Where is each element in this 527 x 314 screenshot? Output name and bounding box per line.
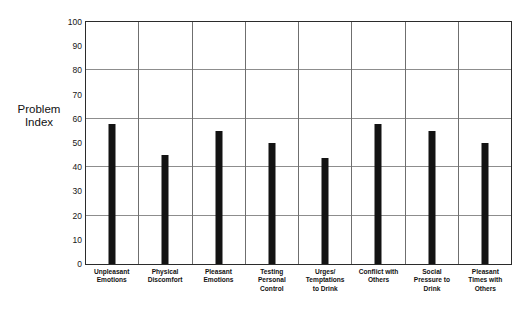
x-axis-label: Conflict withOthers	[352, 268, 405, 312]
bar	[322, 158, 329, 264]
bar	[428, 131, 435, 264]
bar	[375, 124, 382, 264]
x-axis-label: SocialPressure toDrink	[405, 268, 458, 312]
x-axis-label-line: Physical	[139, 268, 190, 276]
bar-column	[352, 22, 405, 264]
x-axis-label-line: Pleasant	[193, 268, 244, 276]
y-tick-label: 30	[52, 187, 82, 196]
x-axis-label-line: Urges/	[300, 268, 351, 276]
y-tick-label: 0	[52, 260, 82, 269]
bar	[215, 131, 222, 264]
x-axis-label-line: Social	[406, 268, 457, 276]
x-axis-label-line: Emotions	[193, 276, 244, 284]
bar-chart-figure: Problem Index 1009080706050403020100 Unp…	[0, 0, 527, 314]
y-tick-label: 90	[52, 42, 82, 51]
x-axis-label-line: Pressure to	[406, 276, 457, 284]
y-tick-label: 50	[52, 139, 82, 148]
x-axis-label-line: Pleasant	[460, 268, 511, 276]
bar	[109, 124, 116, 264]
x-axis-label-line: Temptations	[300, 276, 351, 284]
x-axis-label: UnpleasantEmotions	[85, 268, 138, 312]
y-tick-label: 80	[52, 66, 82, 75]
x-axis-label-line: Others	[353, 276, 404, 284]
x-axis-label: Urges/Temptationsto Drink	[299, 268, 352, 312]
x-axis-label: PhysicalDiscomfort	[138, 268, 191, 312]
bar-column	[406, 22, 459, 264]
x-axis-label-line: to Drink	[300, 285, 351, 293]
x-axis-label-line: Conflict with	[353, 268, 404, 276]
bar	[162, 155, 169, 264]
bar	[268, 143, 275, 264]
x-axis-label-line: Drink	[406, 285, 457, 293]
bar-column	[246, 22, 299, 264]
bar-column	[299, 22, 352, 264]
x-axis-label-line: Others	[460, 285, 511, 293]
x-axis-label-line: Discomfort	[139, 276, 190, 284]
bar-columns	[86, 22, 511, 264]
y-tick-label: 70	[52, 91, 82, 100]
y-tick-label: 20	[52, 212, 82, 221]
bar-column	[86, 22, 139, 264]
bar-column	[459, 22, 511, 264]
x-axis-label-line: Testing	[246, 268, 297, 276]
y-tick-label: 60	[52, 115, 82, 124]
bar	[481, 143, 488, 264]
x-axis-label-line: Control	[246, 285, 297, 293]
bar-column	[139, 22, 192, 264]
x-axis-label-line: Unpleasant	[86, 268, 137, 276]
x-axis-label: PleasantTimes withOthers	[459, 268, 512, 312]
y-tick-label: 10	[52, 236, 82, 245]
y-tick-label: 100	[52, 18, 82, 27]
x-axis-label: TestingPersonalControl	[245, 268, 298, 312]
x-axis-label-line: Times with	[460, 276, 511, 284]
bar-column	[193, 22, 246, 264]
x-axis-label-line: Personal	[246, 276, 297, 284]
y-tick-label: 40	[52, 163, 82, 172]
x-axis-label: PleasantEmotions	[192, 268, 245, 312]
x-axis-label-line: Emotions	[86, 276, 137, 284]
plot-area: 1009080706050403020100	[85, 21, 512, 265]
x-axis-labels: UnpleasantEmotionsPhysicalDiscomfortPlea…	[85, 268, 512, 312]
